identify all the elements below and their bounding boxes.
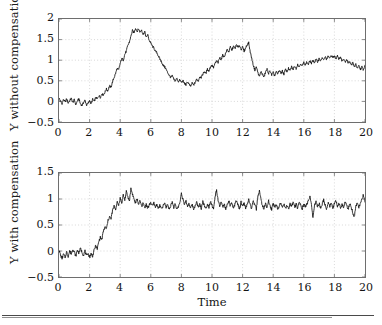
x-tick-label: 10 bbox=[198, 281, 226, 294]
y-axis-label-top: Y without compensation bbox=[7, 11, 21, 131]
footer-divider-rule bbox=[2, 315, 374, 316]
x-tick-label: 6 bbox=[136, 281, 164, 294]
tickmarks-top bbox=[59, 19, 365, 122]
y-tick-label: 0.5 bbox=[16, 218, 54, 231]
chart-panel-top: Y without compensation −0.500.511.52 024… bbox=[0, 0, 382, 150]
x-tick-label: 0 bbox=[44, 126, 72, 139]
chart-panel-bottom: Y with compensation −0.500.511.5 0246810… bbox=[0, 150, 382, 310]
gridlines-bottom bbox=[59, 173, 365, 277]
x-tick-label: 10 bbox=[198, 126, 226, 139]
x-tick-label: 6 bbox=[136, 126, 164, 139]
x-tick-label: 8 bbox=[167, 126, 195, 139]
x-tick-label: 4 bbox=[106, 281, 134, 294]
gridlines-top bbox=[59, 19, 365, 122]
y-tick-label: 1.5 bbox=[16, 165, 54, 178]
footer-divider-rule-secondary bbox=[2, 317, 332, 318]
y-tick-label: 2 bbox=[16, 11, 54, 24]
x-tick-label: 4 bbox=[106, 126, 134, 139]
plot-svg-bottom bbox=[59, 173, 365, 277]
x-tick-label: 8 bbox=[167, 281, 195, 294]
y-tick-label: 0 bbox=[16, 95, 54, 108]
y-tick-label: 1 bbox=[16, 192, 54, 205]
x-tick-label: 16 bbox=[290, 281, 318, 294]
x-tick-label: 18 bbox=[321, 281, 349, 294]
plot-area-bottom bbox=[58, 172, 366, 278]
y-tick-label: 1 bbox=[16, 53, 54, 66]
x-tick-label: 18 bbox=[321, 126, 349, 139]
x-tick-label: 12 bbox=[229, 281, 257, 294]
plot-svg-top bbox=[59, 19, 365, 122]
x-tick-label: 2 bbox=[75, 281, 103, 294]
x-tick-label: 14 bbox=[260, 281, 288, 294]
y-tick-label: 0 bbox=[16, 245, 54, 258]
y-tick-label: 1.5 bbox=[16, 32, 54, 45]
x-axis-label: Time bbox=[58, 295, 366, 309]
plot-area-top bbox=[58, 18, 366, 123]
x-tick-label: 0 bbox=[44, 281, 72, 294]
figure-container: Y without compensation −0.500.511.52 024… bbox=[0, 0, 382, 325]
y-tick-label: 0.5 bbox=[16, 74, 54, 87]
x-tick-label: 12 bbox=[229, 126, 257, 139]
x-tick-label: 16 bbox=[290, 126, 318, 139]
x-tick-label: 20 bbox=[352, 126, 380, 139]
x-tick-label: 14 bbox=[260, 126, 288, 139]
x-tick-label: 2 bbox=[75, 126, 103, 139]
x-tick-label: 20 bbox=[352, 281, 380, 294]
